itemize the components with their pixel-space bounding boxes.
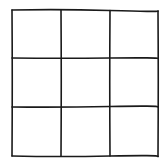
cell-3-2[interactable] (62, 108, 109, 155)
divider-horizontal-2 (12, 106, 158, 107)
cell-2-1[interactable] (13, 59, 60, 106)
cell-1-1[interactable] (13, 11, 60, 57)
cell-3-1[interactable] (13, 108, 60, 155)
cell-1-2[interactable] (62, 11, 109, 57)
cell-3-3[interactable] (111, 108, 157, 155)
border-bottom (12, 156, 158, 157)
cell-1-3[interactable] (111, 11, 157, 57)
cell-2-2[interactable] (62, 59, 109, 106)
cell-2-3[interactable] (111, 59, 157, 106)
